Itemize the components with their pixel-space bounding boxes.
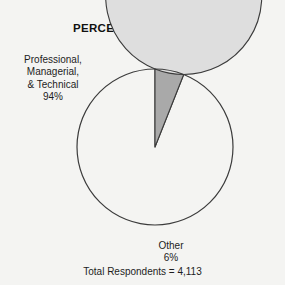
- slice-label-professional-line3: & Technical: [16, 79, 90, 91]
- pie-slice-other: [155, 69, 184, 147]
- pie-chart-figure: PERCENT OF READERS Professional, Manager…: [0, 0, 285, 285]
- slice-label-professional: Professional, Managerial, & Technical 94…: [16, 54, 90, 104]
- slice-label-other-name: Other: [143, 240, 199, 252]
- slice-label-other: Other 6%: [143, 240, 199, 265]
- slice-label-professional-line2: Managerial,: [16, 66, 90, 78]
- slice-label-professional-line1: Professional,: [16, 54, 90, 66]
- total-respondents-note: Total Respondents = 4,113: [0, 266, 285, 277]
- slice-label-other-percent: 6%: [143, 252, 199, 264]
- slice-label-professional-percent: 94%: [16, 91, 90, 103]
